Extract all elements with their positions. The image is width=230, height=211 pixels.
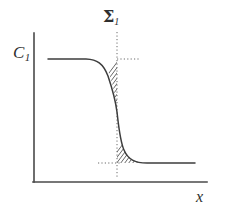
interface-label-subscript: 1 <box>114 16 119 27</box>
concentration-curve <box>48 59 195 163</box>
y-axis-label-subscript: 1 <box>25 51 31 63</box>
figure-canvas <box>0 0 230 211</box>
y-axis-label-text: C <box>13 43 24 62</box>
concentration-profile-figure: C1 Σ1 x <box>0 0 230 211</box>
interface-label: Σ1 <box>103 9 119 27</box>
interface-label-text: Σ <box>103 7 114 26</box>
x-axis-label: x <box>196 189 203 205</box>
lower-hatched-region <box>96 100 200 180</box>
upper-hatched-region <box>70 45 178 125</box>
y-axis-label: C1 <box>13 44 30 63</box>
